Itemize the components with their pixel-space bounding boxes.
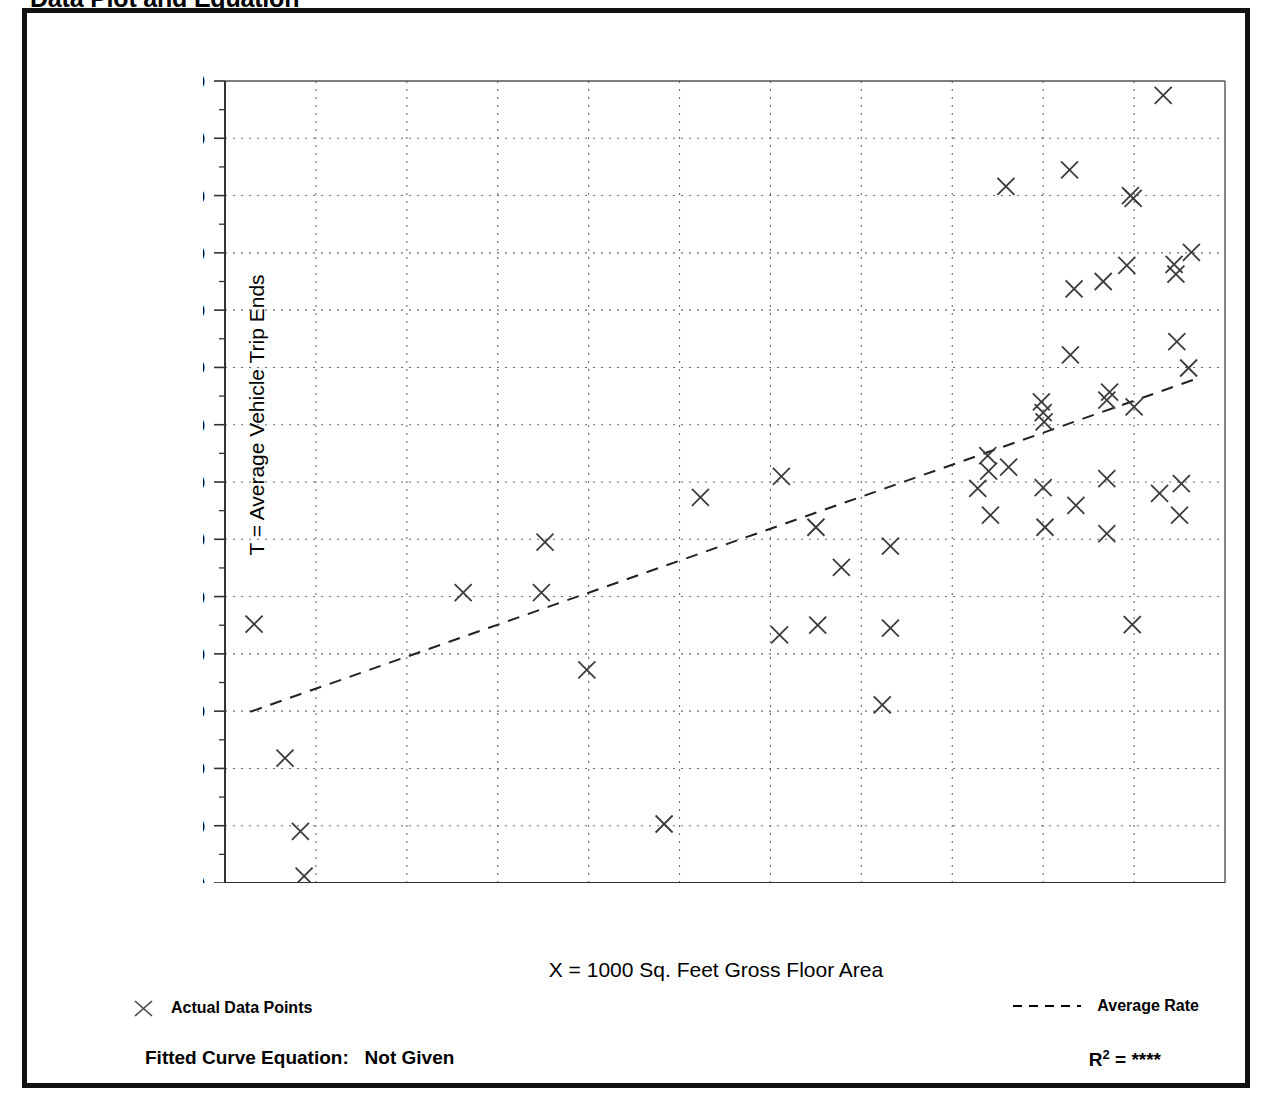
data-point-marker <box>246 616 263 633</box>
data-point-marker <box>1118 257 1135 274</box>
fitted-curve-equation-label: Fitted Curve Equation: <box>145 1047 349 1068</box>
chart-panel: T = Average Vehicle Trip Ends 4005006007… <box>203 73 1229 883</box>
y-tick-label: 1,800 <box>203 73 205 92</box>
data-point-marker <box>292 823 309 840</box>
data-point-marker <box>1171 507 1188 524</box>
data-point-marker <box>1061 161 1078 178</box>
x-marker-icon <box>131 997 157 1019</box>
data-point-marker <box>773 468 790 485</box>
legend-label-average-rate: Average Rate <box>1097 997 1199 1015</box>
data-point-marker <box>537 534 554 551</box>
data-point-marker <box>1167 266 1184 283</box>
grid-lines <box>225 81 1225 883</box>
y-tick-label: 800 <box>203 644 205 665</box>
data-points <box>246 87 1200 883</box>
data-point-marker <box>980 463 997 480</box>
data-point-marker <box>1095 273 1112 290</box>
data-point-marker <box>809 617 826 634</box>
data-point-marker <box>1155 87 1172 104</box>
y-tick-label: 900 <box>203 587 205 608</box>
data-point-marker <box>1173 475 1190 492</box>
data-point-marker <box>1151 485 1168 502</box>
data-point-marker <box>656 815 673 832</box>
data-point-marker <box>1180 360 1197 377</box>
y-tick-label: 1,300 <box>203 357 205 378</box>
legend-item-actual-data-points: Actual Data Points <box>131 997 312 1019</box>
legend-item-average-rate: Average Rate <box>1011 997 1199 1015</box>
data-point-marker <box>455 584 472 601</box>
data-point-marker <box>533 584 550 601</box>
chart-footer: Fitted Curve Equation: Not Given R2 = **… <box>203 1043 1229 1089</box>
y-tick-label: 600 <box>203 758 205 779</box>
x-axis-title: X = 1000 Sq. Feet Gross Floor Area <box>203 958 1229 982</box>
dashed-line-icon <box>1011 1000 1083 1012</box>
data-point-marker <box>296 868 313 883</box>
legend-label-actual-data-points: Actual Data Points <box>171 999 312 1017</box>
data-point-marker <box>1183 244 1200 261</box>
data-point-marker <box>833 559 850 576</box>
y-tick-label: 1,400 <box>203 300 205 321</box>
y-tick-label: 1,700 <box>203 128 205 149</box>
data-point-marker <box>882 620 899 637</box>
y-tick-label: 1,600 <box>203 186 205 207</box>
tick-labels: 4005006007008009001,0001,1001,2001,3001,… <box>203 73 1229 883</box>
data-point-marker <box>1062 346 1079 363</box>
r-squared-exponent: 2 <box>1103 1047 1110 1062</box>
data-point-marker <box>807 519 824 536</box>
r-squared-stars: **** <box>1131 1049 1161 1070</box>
y-tick-label: 500 <box>203 816 205 837</box>
chart-legend: Actual Data Points Average Rate <box>203 993 1229 1033</box>
data-point-marker <box>882 538 899 555</box>
data-point-marker <box>1124 616 1141 633</box>
y-tick-label: 1,100 <box>203 472 205 493</box>
data-point-marker <box>1098 470 1115 487</box>
y-tick-label: 1,000 <box>203 529 205 550</box>
data-point-marker <box>982 507 999 524</box>
average-rate-trendline <box>250 378 1197 711</box>
r-squared-equals: = <box>1115 1049 1126 1070</box>
scatter-plot-svg: 4005006007008009001,0001,1001,2001,3001,… <box>203 73 1229 883</box>
plot-area: 4005006007008009001,0001,1001,2001,3001,… <box>203 73 1229 883</box>
data-point-marker <box>1037 519 1054 536</box>
y-tick-label: 700 <box>203 701 205 722</box>
data-point-marker <box>277 750 294 767</box>
r-squared-value: R2 = **** <box>1089 1047 1161 1071</box>
data-point-marker <box>997 178 1014 195</box>
y-tick-label: 400 <box>203 873 205 883</box>
figure-frame: T = Average Vehicle Trip Ends 4005006007… <box>22 8 1250 1088</box>
data-point-marker <box>1036 413 1053 430</box>
data-point-marker <box>578 661 595 678</box>
data-point-marker <box>1168 333 1185 350</box>
data-point-marker <box>1000 459 1017 476</box>
data-point-marker <box>692 489 709 506</box>
data-point-marker <box>1067 497 1084 514</box>
y-tick-label: 1,500 <box>203 243 205 264</box>
fitted-curve-equation: Fitted Curve Equation: Not Given <box>145 1047 454 1069</box>
data-point-marker <box>1066 280 1083 297</box>
fitted-curve-equation-value: Not Given <box>365 1047 455 1068</box>
data-point-marker <box>979 447 996 464</box>
data-point-marker <box>771 626 788 643</box>
r-squared-symbol: R <box>1089 1049 1103 1070</box>
y-tick-label: 1,200 <box>203 415 205 436</box>
